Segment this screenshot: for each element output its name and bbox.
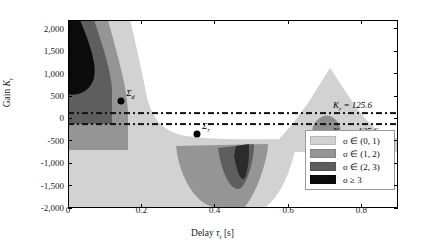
y-tick-label: -1,500	[20, 181, 64, 191]
x-tick-mark	[68, 20, 69, 24]
y-tick-mark	[68, 140, 72, 141]
legend-label-3: σ ≥ 3	[343, 175, 362, 185]
x-tick-mark	[361, 204, 362, 208]
reference-line-upper	[68, 111, 398, 114]
y-tick-mark	[394, 118, 398, 119]
y-tick-label: 1,500	[20, 46, 64, 56]
legend-swatch-0	[310, 136, 336, 145]
y-tick-mark	[68, 96, 72, 97]
marker-sigma-2-label: Σr	[202, 121, 210, 133]
y-tick-mark	[68, 185, 72, 186]
x-tick-mark	[288, 20, 289, 24]
y-tick-mark	[394, 185, 398, 186]
x-tick-mark	[214, 204, 215, 208]
legend-item: σ ≥ 3	[310, 173, 389, 186]
x-axis-label: Delay τr [s]	[0, 228, 425, 240]
reference-label-upper: Kr = 125.6	[333, 100, 372, 112]
figure: Gain Kr Delay τr [s]	[0, 0, 425, 250]
marker-sigma-1	[118, 97, 125, 104]
legend-label-1: σ ∈ (1, 2)	[343, 149, 380, 159]
y-tick-mark	[68, 163, 72, 164]
y-tick-label: -2,000	[20, 203, 64, 213]
y-tick-label: 0	[20, 113, 64, 123]
legend-item: σ ∈ (2, 3)	[310, 160, 389, 173]
marker-sigma-2	[194, 131, 201, 138]
legend-item: σ ∈ (0, 1)	[310, 134, 389, 147]
y-tick-label: 500	[20, 91, 64, 101]
x-tick-mark	[68, 204, 69, 208]
y-tick-mark	[394, 28, 398, 29]
marker-sigma-1-label: Σd	[126, 88, 134, 100]
y-tick-mark	[68, 28, 72, 29]
y-tick-mark	[394, 73, 398, 74]
y-tick-mark	[394, 163, 398, 164]
y-axis-label: Gain Kr	[2, 78, 14, 107]
legend-label-0: σ ∈ (0, 1)	[343, 136, 380, 146]
legend-swatch-1	[310, 149, 336, 158]
x-tick-mark	[361, 20, 362, 24]
x-tick-mark	[141, 20, 142, 24]
y-tick-label: 2,000	[20, 24, 64, 34]
y-tick-mark	[68, 51, 72, 52]
y-tick-label: -500	[20, 136, 64, 146]
y-tick-mark	[68, 73, 72, 74]
y-tick-mark	[394, 96, 398, 97]
x-tick-mark	[141, 204, 142, 208]
y-tick-mark	[394, 51, 398, 52]
legend-swatch-2	[310, 162, 336, 171]
y-tick-label: -1,000	[20, 158, 64, 168]
legend: σ ∈ (0, 1) σ ∈ (1, 2) σ ∈ (2, 3) σ ≥ 3	[305, 130, 395, 190]
legend-swatch-3	[310, 175, 336, 184]
y-tick-mark	[394, 208, 398, 209]
x-tick-mark	[288, 204, 289, 208]
y-tick-mark	[394, 140, 398, 141]
legend-label-2: σ ∈ (2, 3)	[343, 162, 380, 172]
legend-item: σ ∈ (1, 2)	[310, 147, 389, 160]
y-tick-label: 1,000	[20, 69, 64, 79]
x-tick-mark	[214, 20, 215, 24]
y-tick-mark	[68, 118, 72, 119]
